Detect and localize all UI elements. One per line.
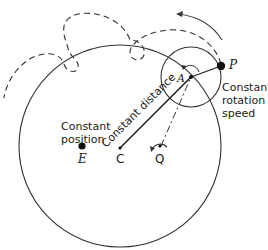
point-C (118, 146, 121, 149)
epicycle-radius-line (191, 66, 221, 77)
point-A (189, 75, 193, 79)
label-constant-rotation-3: speed (222, 107, 255, 120)
point-Q (158, 144, 161, 147)
equant-diagram: E C Q A P Constant position Constant dis… (0, 0, 268, 250)
label-constant-position-2: position (61, 133, 105, 146)
label-Q: Q (155, 152, 164, 166)
label-A: A (176, 72, 185, 85)
label-constant-position-1: Constant (61, 120, 111, 133)
label-E: E (77, 152, 87, 166)
label-constant-rotation-2: rotation (222, 94, 265, 107)
motion-arrow-head (176, 11, 183, 17)
point-P (217, 62, 225, 70)
label-C: C (116, 152, 124, 166)
planet-path-dashed (4, 13, 221, 98)
label-constant-distance: Constant distance (99, 70, 179, 150)
label-constant-rotation-1: Constant (222, 81, 268, 94)
label-P: P (228, 58, 238, 72)
motion-arrow (178, 14, 222, 40)
